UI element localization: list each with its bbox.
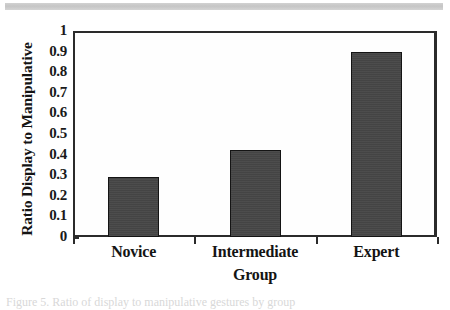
y-axis-tick-label: 0.1 — [23, 208, 67, 223]
y-axis-tick-label: 0.8 — [23, 64, 67, 79]
x-axis-title: Group — [73, 266, 437, 284]
x-axis-label-novice: Novice — [73, 243, 194, 261]
y-axis-tick-label: 0.5 — [23, 126, 67, 141]
bar-intermediate — [230, 150, 281, 237]
y-axis-tick-label: 0 — [23, 229, 67, 244]
scan-artifact-bar — [5, 3, 443, 10]
y-axis-tick-label: 0.6 — [23, 105, 67, 120]
y-axis-tick-label: 0.3 — [23, 167, 67, 182]
figure-caption: Figure 5. Ratio of display to manipulati… — [6, 295, 450, 310]
y-axis-tick-label: 1 — [23, 23, 67, 38]
x-axis-tick — [437, 237, 439, 244]
y-axis-tick-label: 0.7 — [23, 85, 67, 100]
y-axis-tick-label: 0.2 — [23, 188, 67, 203]
x-axis-label-intermediate: Intermediate — [194, 243, 315, 261]
bar-expert — [351, 52, 402, 237]
x-axis-label-expert: Expert — [316, 243, 437, 261]
y-axis-tick-label: 0.4 — [23, 147, 67, 162]
bar-novice — [108, 177, 159, 237]
y-axis-tick-label: 0.9 — [23, 44, 67, 59]
